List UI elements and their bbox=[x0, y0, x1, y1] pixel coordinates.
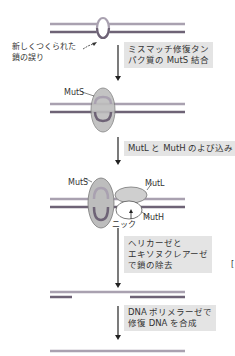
muts-label-1: MutS bbox=[64, 87, 84, 98]
nick-label: ニック bbox=[112, 219, 136, 230]
step-3-line1: ヘリカーゼと bbox=[128, 238, 208, 249]
mismatch-note-line1: 新しくつくられた bbox=[12, 41, 76, 52]
mutl-label: MutL bbox=[145, 178, 165, 189]
step-2-box: MutL と MutH のよび込み bbox=[124, 141, 235, 156]
stray-bracket: [ bbox=[231, 259, 234, 270]
excised-strand-stage bbox=[50, 292, 185, 297]
mismatch-repair-diagram: 新しくつくられた 鎖の誤り ミスマッチ修復タン パク質の MutS 結合 Mut… bbox=[0, 0, 235, 356]
step-3-line2: エキソヌクレアーゼ bbox=[128, 249, 208, 260]
mismatch-note-line2: 鎖の誤り bbox=[12, 52, 76, 63]
step-4-line2: 修復 DNA を合成 bbox=[128, 318, 212, 329]
step-3-box: ヘリカーゼと エキソヌクレアーゼ で鎖の除去 bbox=[124, 236, 212, 273]
mismatch-note: 新しくつくられた 鎖の誤り bbox=[12, 41, 76, 63]
step-4-line1: DNA ポリメラーゼで bbox=[128, 307, 212, 318]
step-2-line1: MutL と MutH のよび込み bbox=[128, 143, 233, 154]
step-1-line2: パク質の MutS 結合 bbox=[128, 55, 209, 66]
muts-label-2: MutS bbox=[68, 177, 88, 188]
step-3-line3: で鎖の除去 bbox=[128, 260, 208, 271]
step-1-box: ミスマッチ修復タン パク質の MutS 結合 bbox=[124, 42, 213, 68]
step-4-box: DNA ポリメラーゼで 修復 DNA を合成 bbox=[124, 305, 216, 331]
muth-label: MutH bbox=[143, 212, 164, 223]
step-1-line1: ミスマッチ修復タン bbox=[128, 44, 209, 55]
